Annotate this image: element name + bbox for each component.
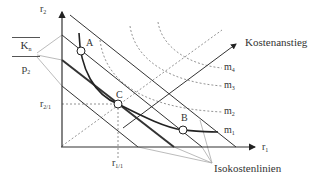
point-a-label: A — [86, 38, 93, 48]
isoquant-label-m2: m2 — [224, 106, 235, 117]
cost-increase-arrow — [123, 44, 236, 128]
cost-increase-label: Kostenanstieg — [245, 37, 307, 48]
isoquant-label-m4: m4 — [224, 62, 235, 73]
isocost-lines-label: Isokostenlinien — [214, 163, 281, 174]
isoquant-label-m3: m3 — [224, 80, 235, 91]
isocost-diagram — [0, 0, 317, 181]
point-c-label: C — [116, 90, 123, 100]
r21-label: r2/1 — [40, 99, 51, 110]
budget-intercept-fraction: Kn p2 — [12, 37, 40, 75]
point-a-marker — [77, 47, 85, 55]
isoquant-m3 — [130, 26, 222, 86]
isoquant-label-m1: m1 — [224, 125, 235, 136]
point-c-marker — [114, 100, 122, 108]
r11-label: r1/1 — [112, 158, 123, 169]
point-b-marker — [179, 126, 187, 134]
isocost-line-1 — [62, 86, 138, 147]
leader-lines — [37, 35, 212, 163]
y-axis-label: r2 — [40, 4, 46, 15]
point-b-label: B — [181, 113, 188, 123]
isocost-line-4 — [70, 15, 236, 147]
x-axis-label: r1 — [262, 142, 268, 153]
